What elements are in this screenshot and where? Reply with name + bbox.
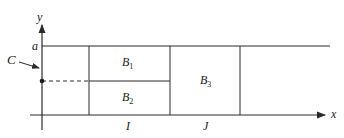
diagram: y x a C B1 B2 B3 I J [0,0,344,138]
region-b1-label: B1 [122,55,133,71]
x-axis-label: x [330,107,337,121]
point-dot [40,79,45,84]
y-axis-label: y [36,10,43,24]
region-b2-label: B2 [122,90,133,106]
level-a-label: a [32,39,38,53]
point-c-arrow [19,62,39,68]
point-c-label: C [7,52,16,67]
interval-j-label: J [203,119,209,133]
region-b3-label: B3 [200,73,211,89]
interval-i-label: I [125,119,131,133]
diagram-canvas: y x a C B1 B2 B3 I J [0,0,344,138]
